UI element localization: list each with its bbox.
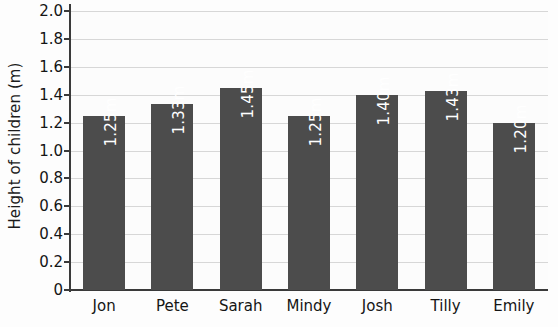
bar: 1.20m [493, 123, 535, 290]
y-tick-label: 1.4 [39, 87, 63, 102]
y-tick-mark [64, 289, 71, 291]
y-tick-mark [64, 205, 71, 207]
bar-group: 1.40m [356, 11, 398, 290]
x-tick-label: Emily [480, 297, 548, 315]
y-tick-mark [64, 38, 71, 40]
y-tick-mark [64, 66, 71, 68]
bar-value-label: 1.45m [241, 69, 256, 118]
y-tick-label: 0.2 [39, 255, 63, 270]
y-tick-label: 0.4 [39, 227, 63, 242]
x-tick-label: Sarah [207, 297, 275, 315]
y-tick-mark [64, 177, 71, 179]
bar-value-label: 1.25m [104, 97, 119, 146]
y-tick-mark [64, 261, 71, 263]
y-tick-mark [64, 94, 71, 96]
y-tick-label: 0.6 [39, 199, 63, 214]
bar-value-label: 1.33m [172, 86, 187, 135]
y-tick-mark [64, 122, 71, 124]
bar-group: 1.43m [425, 11, 467, 290]
bar-group: 1.25m [288, 11, 330, 290]
y-tick-mark [64, 233, 71, 235]
y-tick-label: 2.0 [39, 4, 63, 19]
bar-value-label: 1.43m [446, 72, 461, 121]
x-tick-label: Josh [343, 297, 411, 315]
y-tick-label: 1.2 [39, 115, 63, 130]
bar-value-label: 1.25m [309, 97, 324, 146]
y-tick-label: 0.8 [39, 171, 63, 186]
y-tick-label: 0 [53, 283, 63, 298]
bar: 1.33m [151, 104, 193, 290]
y-tick-mark [64, 10, 71, 12]
bar-group: 1.33m [151, 11, 193, 290]
y-tick-label: 1.8 [39, 31, 63, 46]
y-tick-label: 1.0 [39, 143, 63, 158]
bar-value-label: 1.20m [514, 104, 529, 153]
bar-group: 1.20m [493, 11, 535, 290]
bar: 1.25m [288, 116, 330, 290]
y-tick-label: 1.6 [39, 59, 63, 74]
bar-group: 1.45m [220, 11, 262, 290]
y-tick-mark [64, 150, 71, 152]
y-axis-title: Height of children (m) [0, 0, 30, 291]
y-axis-tick-labels: 00.20.40.60.81.01.21.41.61.82.0 [30, 0, 67, 291]
x-tick-label: Mindy [275, 297, 343, 315]
bar-value-label: 1.40m [377, 76, 392, 125]
y-axis-title-text: Height of children (m) [6, 62, 24, 229]
bars-layer: 1.25m1.33m1.45m1.25m1.40m1.43m1.20m [70, 11, 548, 290]
bar-group: 1.25m [83, 11, 125, 290]
bar-chart: Height of children (m) 00.20.40.60.81.01… [0, 0, 558, 327]
bar: 1.25m [83, 116, 125, 290]
x-tick-label: Tilly [411, 297, 479, 315]
x-tick-label: Jon [70, 297, 138, 315]
x-axis-tick-labels: JonPeteSarahMindyJoshTillyEmily [70, 293, 548, 327]
x-tick-label: Pete [138, 297, 206, 315]
bar: 1.40m [356, 95, 398, 290]
bar: 1.45m [220, 88, 262, 290]
bar: 1.43m [425, 91, 467, 290]
